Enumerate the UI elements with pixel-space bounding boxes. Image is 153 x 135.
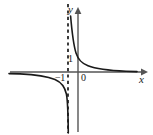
tick-label-y-one: 1 (68, 54, 73, 64)
x-axis-label: x (139, 74, 144, 85)
graph-figure: y x −1 0 1 (0, 0, 153, 135)
y-axis-label: y (68, 4, 73, 15)
y-axis-arrowhead (75, 7, 82, 14)
coordinate-plot (0, 0, 153, 135)
tick-label-negative-one: −1 (55, 73, 65, 83)
tick-label-origin: 0 (81, 73, 86, 83)
curve-upper-right-branch (71, 16, 137, 72)
